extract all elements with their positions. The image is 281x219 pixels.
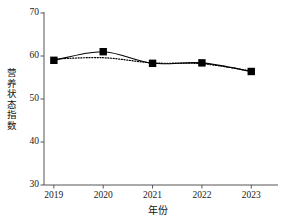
y-axis-title: 营养状态指数	[4, 61, 16, 137]
y-tick-label: 50	[18, 94, 39, 104]
data-point-marker: 2021: 58.3	[149, 60, 156, 67]
y-tick-label: 40	[18, 137, 39, 147]
y-tick-label: 30	[18, 180, 39, 190]
chart-container: 2019: 592020: 612021: 58.32022: 58.42023…	[0, 0, 281, 219]
x-tick-label: 2019	[44, 191, 63, 201]
y-tick-label: 70	[18, 8, 39, 18]
x-tick-label: 2021	[143, 191, 162, 201]
x-axis-ticks	[54, 185, 251, 189]
data-point-marker: 2022: 58.4	[198, 59, 205, 66]
data-point-marker: 2019: 59	[50, 57, 57, 64]
chart-plot-area: 2019: 592020: 612021: 58.32022: 58.42023…	[0, 0, 281, 219]
x-tick-label: 2022	[192, 191, 211, 201]
x-tick-label: 2020	[94, 191, 113, 201]
x-tick-label: 2023	[242, 191, 261, 201]
y-axis-ticks	[41, 13, 45, 185]
x-axis-title: 年份	[148, 206, 168, 216]
data-point-marker: 2020: 61	[100, 48, 107, 55]
series-main-markers: 2019: 592020: 612021: 58.32022: 58.42023…	[50, 48, 255, 75]
data-point-marker: 2023: 56.4	[248, 68, 255, 75]
y-tick-label: 60	[18, 51, 39, 61]
axis-spines	[44, 12, 278, 185]
